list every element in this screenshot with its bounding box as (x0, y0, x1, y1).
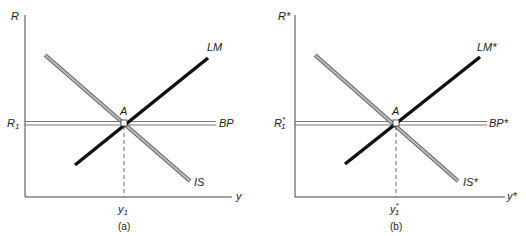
r1-label: R1 (7, 117, 19, 131)
lm-label: LM* (477, 41, 497, 53)
point-label: A (391, 105, 399, 117)
is-label: IS (194, 176, 205, 188)
lm-curve (345, 57, 480, 164)
panel-a: R y A LM BP IS R1 y1 (a) (7, 10, 243, 232)
y-axis-label: R* (278, 10, 291, 22)
is-curve (315, 55, 458, 181)
panel-caption: (a) (118, 221, 130, 232)
equilibrium-point (393, 120, 399, 126)
lm-curve (75, 58, 208, 165)
equilibrium-point (121, 120, 127, 126)
point-label: A (119, 105, 127, 117)
panel-caption: (b) (390, 221, 402, 232)
y1-label: y1 (117, 203, 128, 217)
is-curve (45, 55, 190, 181)
bp-label: BP* (489, 117, 509, 129)
y1-label: y*1 (389, 201, 400, 217)
x-axis-label: y* (506, 190, 518, 202)
r1-label: R*1 (274, 115, 286, 131)
x-axis-label: y (235, 190, 243, 202)
y-axis-label: R (11, 10, 19, 22)
bp-label: BP (219, 117, 234, 129)
panel-b: R* y* A LM* BP* IS* R*1 y*1 (b) (274, 10, 518, 232)
diagram-canvas: R y A LM BP IS R1 y1 (a) R* y* A LM* B (0, 0, 526, 236)
is-label: IS* (463, 176, 478, 188)
lm-label: LM (207, 41, 223, 53)
